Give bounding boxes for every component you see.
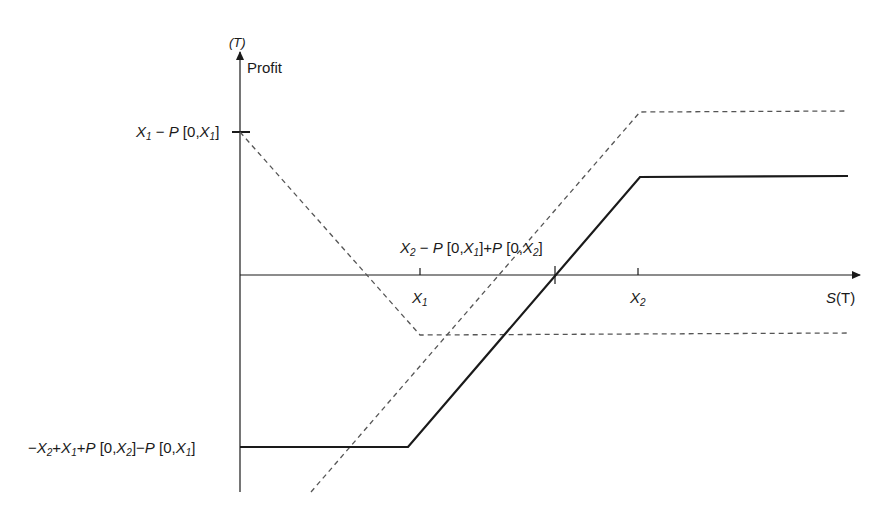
X-text: X — [37, 439, 47, 456]
minus-sign: − — [136, 439, 145, 456]
minus-sign: − — [156, 123, 165, 140]
x2-tick-label: X2 — [630, 290, 646, 308]
strategy-payoff-line — [240, 176, 848, 447]
X-text: X — [464, 239, 474, 256]
bracket-close: ] — [215, 123, 219, 140]
minus-sign: − — [28, 439, 37, 456]
bracket-open: [0, — [179, 123, 200, 140]
x1-tick-label: X1 — [412, 290, 428, 308]
X-text: X — [176, 439, 186, 456]
P-text: P — [145, 439, 155, 456]
P-text: P — [85, 439, 95, 456]
breakeven-label: X2 − P [0,X1]+P [0,X2] — [400, 240, 543, 258]
P-text: P — [433, 239, 443, 256]
S-text: S — [826, 289, 836, 306]
X-text: X — [116, 439, 126, 456]
bracket-close: ] — [191, 439, 195, 456]
sub-1: 1 — [146, 131, 152, 142]
plus-sign: + — [483, 239, 492, 256]
X-text: X — [61, 439, 71, 456]
X-text: X — [200, 123, 210, 140]
put-payoff-line — [240, 132, 848, 335]
bracket-close: ] — [539, 239, 543, 256]
ST-paren: (T) — [836, 289, 855, 306]
profit-text: Profit — [247, 59, 282, 76]
y-level-max-label: X1 − P [0,X1] — [136, 124, 219, 142]
sub-2: 2 — [410, 247, 416, 258]
X-text: X — [523, 239, 533, 256]
X-text: X — [136, 123, 146, 140]
P-text: P — [169, 123, 179, 140]
bracket-open: [0, — [443, 239, 464, 256]
bracket-open: [0, — [155, 439, 176, 456]
X-text: X — [412, 289, 422, 306]
call-payoff-line — [311, 111, 848, 492]
X-text: X — [630, 289, 640, 306]
sub-2: 2 — [640, 297, 646, 308]
bracket-open: [0, — [95, 439, 116, 456]
y-level-min-label: −X2+X1+P [0,X2]−P [0,X1] — [28, 440, 195, 458]
top-T-label: (T) — [229, 36, 246, 49]
T-text: (T) — [229, 35, 246, 50]
sub-1: 1 — [422, 297, 428, 308]
X-text: X — [400, 239, 410, 256]
P-text: P — [492, 239, 502, 256]
plus-sign: + — [52, 439, 61, 456]
y-axis-label: Profit — [247, 60, 282, 75]
minus-sign: − — [420, 239, 429, 256]
x-axis-label: S(T) — [826, 290, 855, 305]
bracket-open: [0, — [502, 239, 523, 256]
